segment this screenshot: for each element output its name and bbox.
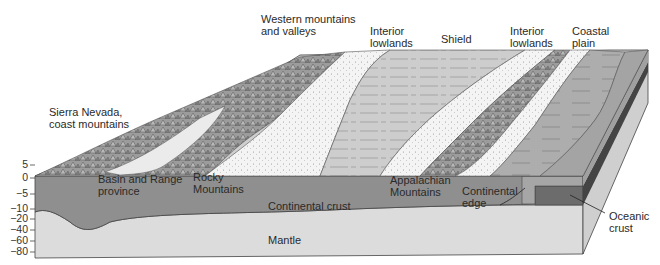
- block-diagram: [0, 0, 660, 265]
- depth-tick: 0: [6, 172, 28, 183]
- label-oceanic-crust: Oceanic crust: [609, 210, 649, 234]
- depth-tick: 5: [6, 159, 28, 170]
- label-rocky-mountains: Rocky Mountains: [193, 171, 244, 195]
- label-western-mountains: Western mountains and valleys: [261, 13, 356, 37]
- label-coastal-plain: Coastal plain: [572, 25, 609, 49]
- label-continental-crust: Continental crust: [268, 200, 351, 212]
- label-basin-range: Basin and Range province: [98, 173, 182, 197]
- depth-tick: −80: [6, 246, 28, 257]
- label-continental-edge: Continental edge: [462, 185, 518, 209]
- depth-tick: −5: [6, 188, 28, 199]
- oceanic-crust-layer: [535, 186, 583, 205]
- label-interior-lowlands-left: Interior lowlands: [370, 25, 413, 49]
- depth-axis: [30, 165, 35, 252]
- label-mantle: Mantle: [268, 234, 301, 246]
- label-interior-lowlands-right: Interior lowlands: [510, 25, 553, 49]
- label-shield: Shield: [441, 33, 472, 45]
- label-sierra-nevada: Sierra Nevada, coast mountains: [49, 106, 129, 130]
- label-appalachian: Appalachian Mountains: [390, 174, 451, 198]
